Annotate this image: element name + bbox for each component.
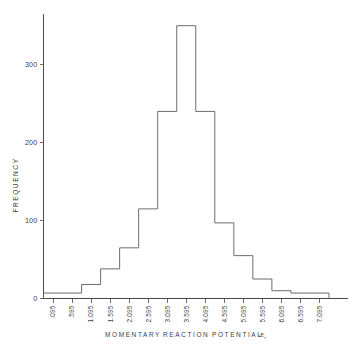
x-axis-tick-labels: .095.5951.0951.5952.0952.5953.0953.5954.… bbox=[49, 305, 322, 322]
y-axis-ticks bbox=[40, 65, 44, 299]
x-axis: .095.5951.0951.5952.0952.5953.0953.5954.… bbox=[44, 299, 349, 323]
x-tick-label-13: 6.595 bbox=[297, 305, 304, 322]
y-axis-tick-labels: 0100200300 bbox=[25, 60, 38, 303]
x-tick-label-14: 7.095 bbox=[316, 305, 323, 322]
x-tick-label-7: 3.595 bbox=[183, 305, 190, 322]
histogram-outline bbox=[44, 26, 329, 299]
x-tick-label-1: .595 bbox=[68, 305, 75, 318]
x-axis-title: MOMENTARY REACTION POTENTIAL sEr bbox=[105, 331, 266, 340]
histogram-figure: 0100200300 FREQUENCY .095.5951.0951.5952… bbox=[0, 0, 357, 348]
x-tick-label-8: 4.095 bbox=[202, 305, 209, 322]
momentary-reaction-potential-histogram: 0100200300 FREQUENCY .095.5951.0951.5952… bbox=[0, 0, 357, 348]
x-axis-title-word-0: MOMENTARY bbox=[105, 331, 161, 338]
y-tick-label-300: 300 bbox=[25, 60, 38, 69]
x-axis-unit-symbol: sEr bbox=[258, 331, 266, 340]
y-axis: 0100200300 FREQUENCY bbox=[12, 14, 44, 303]
x-tick-label-6: 3.095 bbox=[164, 305, 171, 322]
x-axis-title-word-2: POTENTIAL bbox=[212, 331, 263, 338]
x-tick-label-4: 2.095 bbox=[126, 305, 133, 322]
x-tick-label-3: 1.595 bbox=[107, 305, 114, 322]
x-tick-label-2: 1.095 bbox=[87, 305, 94, 322]
x-axis-title-word-1: REACTION bbox=[163, 331, 209, 338]
x-tick-label-5: 2.595 bbox=[145, 305, 152, 322]
histogram-bars bbox=[44, 26, 329, 299]
x-tick-label-11: 5.595 bbox=[259, 305, 266, 322]
y-tick-label-0: 0 bbox=[33, 294, 37, 303]
y-axis-title: FREQUENCY bbox=[12, 157, 20, 212]
x-tick-label-10: 5.095 bbox=[240, 305, 247, 322]
y-tick-label-200: 200 bbox=[25, 138, 38, 147]
y-tick-label-100: 100 bbox=[25, 216, 38, 225]
x-tick-label-0: .095 bbox=[49, 305, 56, 318]
x-tick-label-12: 6.095 bbox=[278, 305, 285, 322]
x-axis-ticks bbox=[53, 299, 319, 303]
x-tick-label-9: 4.595 bbox=[221, 305, 228, 322]
